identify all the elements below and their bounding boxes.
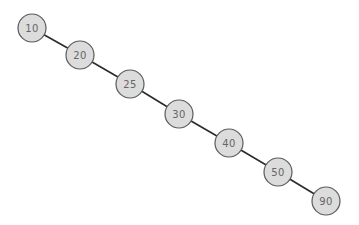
node-label: 40 — [222, 138, 236, 149]
tree-node-90: 90 — [312, 187, 340, 215]
tree-node-25: 25 — [116, 70, 144, 98]
node-label: 50 — [271, 167, 285, 178]
nodes-group: 10202530405090 — [18, 14, 340, 215]
tree-diagram: 10202530405090 — [0, 0, 359, 225]
node-label: 25 — [123, 79, 137, 90]
node-label: 30 — [172, 109, 186, 120]
node-label: 20 — [73, 50, 87, 61]
node-label: 90 — [319, 196, 333, 207]
tree-node-30: 30 — [165, 100, 193, 128]
tree-node-40: 40 — [215, 129, 243, 157]
tree-node-20: 20 — [66, 41, 94, 69]
node-label: 10 — [25, 23, 39, 34]
tree-node-50: 50 — [264, 158, 292, 186]
tree-node-10: 10 — [18, 14, 46, 42]
